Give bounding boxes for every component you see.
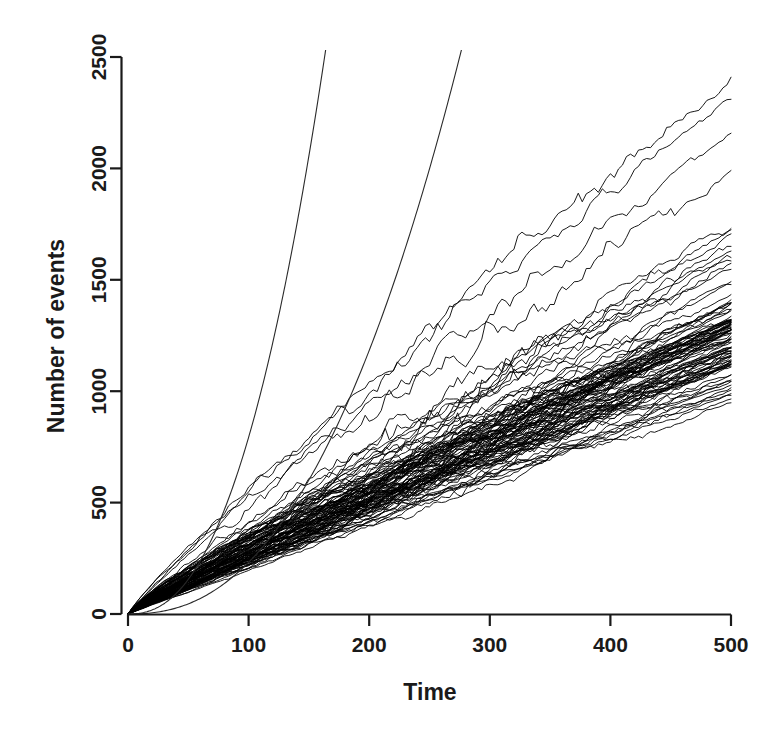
y-tick-label-2500: 2500 xyxy=(87,34,110,81)
x-tick-label-200: 200 xyxy=(352,633,387,656)
y-tick-label-1000: 1000 xyxy=(87,368,110,415)
trajectory-line xyxy=(128,403,731,614)
trajectory-line xyxy=(128,385,731,614)
trajectory-line xyxy=(128,394,731,614)
line-chart-svg: 2500 2000 1500 1000 500 0 Number of even… xyxy=(0,0,779,729)
x-tick-label-100: 100 xyxy=(231,633,266,656)
y-tick-label-2000: 2000 xyxy=(87,145,110,192)
x-axis: 0 100 200 300 400 500 Time xyxy=(122,615,748,706)
y-tick-label-1500: 1500 xyxy=(87,256,110,303)
x-tick-label-400: 400 xyxy=(593,633,628,656)
y-tick-label-500: 500 xyxy=(87,485,110,520)
chart-figure: 2500 2000 1500 1000 500 0 Number of even… xyxy=(0,0,779,729)
y-axis: 2500 2000 1500 1000 500 0 Number of even… xyxy=(43,34,121,620)
x-axis-title: Time xyxy=(403,679,456,705)
x-tick-label-300: 300 xyxy=(472,633,507,656)
y-tick-label-0: 0 xyxy=(87,608,110,620)
x-tick-label-0: 0 xyxy=(122,633,134,656)
trajectory-group xyxy=(128,30,731,614)
x-tick-label-500: 500 xyxy=(713,633,748,656)
y-axis-title: Number of events xyxy=(43,239,69,433)
